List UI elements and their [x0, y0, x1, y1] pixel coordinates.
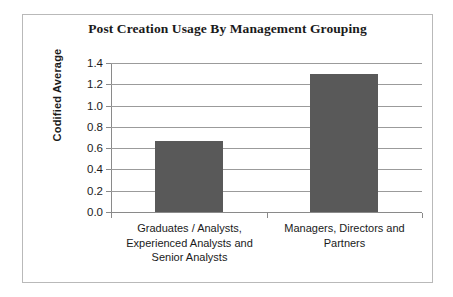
y-axis-tick-labels: 0.00.20.40.60.81.01.21.4 — [65, 63, 103, 212]
chart-title: Post Creation Usage By Management Groupi… — [23, 21, 432, 37]
x-axis-category-labels: Graduates / Analysts, Experienced Analys… — [112, 221, 422, 265]
y-axis-tick-label: 0.4 — [69, 163, 103, 175]
y-axis-tick-mark — [106, 148, 111, 149]
y-axis-tick-mark — [106, 84, 111, 85]
y-axis-tick-label: 0.2 — [69, 185, 103, 197]
y-axis-tick-mark — [106, 191, 111, 192]
y-axis-tick-mark — [106, 127, 111, 128]
bar — [310, 74, 378, 212]
x-axis-label-0: Graduates / Analysts, Experienced Analys… — [112, 221, 267, 265]
y-axis-tick-label: 0.8 — [69, 121, 103, 133]
x-axis-label-1: Managers, Directors and Partners — [267, 221, 422, 265]
x-axis-tick-mark — [267, 213, 268, 218]
y-axis-tick-label: 1.2 — [69, 78, 103, 90]
bar — [155, 141, 223, 212]
y-axis-title: Codified Average — [51, 35, 63, 155]
y-axis-tick-label: 1.0 — [69, 100, 103, 112]
x-axis-tick-mark — [422, 213, 423, 218]
y-axis-tick-label: 0.0 — [69, 206, 103, 218]
x-axis-tick-mark — [111, 213, 112, 218]
y-axis-tick-mark — [106, 169, 111, 170]
y-axis-tick-mark — [106, 106, 111, 107]
plot-area — [111, 63, 422, 212]
chart-figure: Post Creation Usage By Management Groupi… — [22, 14, 433, 283]
y-axis-tick-mark — [106, 63, 111, 64]
y-axis-tick-label: 0.6 — [69, 142, 103, 154]
gridline — [111, 63, 422, 64]
y-axis-tick-label: 1.4 — [69, 57, 103, 69]
